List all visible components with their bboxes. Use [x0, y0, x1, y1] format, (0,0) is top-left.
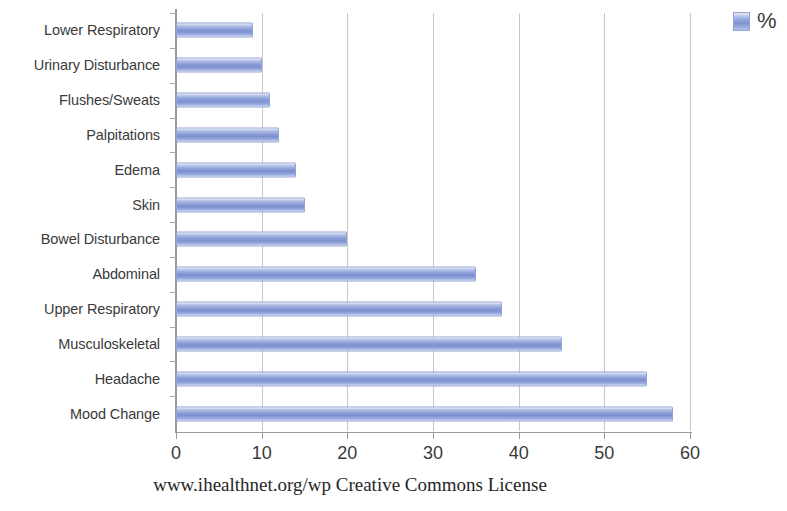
y-axis-tick — [170, 396, 176, 397]
x-axis-tick-labels: 0102030405060 — [176, 443, 690, 473]
gridline — [347, 13, 348, 431]
category-label: Bowel Disturbance — [0, 231, 160, 247]
category-label: Palpitations — [0, 127, 160, 143]
y-axis-tick — [170, 327, 176, 328]
x-axis-tick-label: 30 — [423, 443, 443, 464]
bar-chart: Mood ChangeHeadacheMusculoskeletalUpper … — [0, 0, 787, 511]
bar — [176, 93, 270, 108]
bar — [176, 232, 347, 247]
gridline — [519, 13, 520, 431]
bar — [176, 302, 502, 317]
x-axis-tick — [433, 432, 434, 439]
y-axis-tick — [170, 292, 176, 293]
y-axis-tick — [170, 257, 176, 258]
bar — [176, 197, 305, 212]
bar — [176, 371, 647, 386]
x-axis-tick-label: 40 — [509, 443, 529, 464]
x-axis-tick — [519, 432, 520, 439]
bar — [176, 336, 562, 351]
y-axis-tick — [170, 187, 176, 188]
y-axis-tick — [170, 118, 176, 119]
category-label: Edema — [0, 162, 160, 178]
x-axis-tick-label: 20 — [337, 443, 357, 464]
category-label: Abdominal — [0, 266, 160, 282]
category-label: Lower Respiratory — [0, 22, 160, 38]
category-label: Urinary Disturbance — [0, 57, 160, 73]
y-axis-tick — [170, 48, 176, 49]
category-label: Headache — [0, 371, 160, 387]
category-label: Skin — [0, 197, 160, 213]
gridline — [690, 13, 691, 431]
legend-swatch-icon — [733, 12, 750, 31]
bar — [176, 267, 476, 282]
bar — [176, 23, 253, 38]
x-axis-tick — [176, 432, 177, 439]
x-axis-tick-label: 60 — [680, 443, 700, 464]
gridline — [604, 13, 605, 431]
gridline — [262, 13, 263, 431]
x-axis-tick-label: 0 — [171, 443, 181, 464]
x-axis-tick — [262, 432, 263, 439]
plot-area — [176, 13, 690, 431]
bar — [176, 127, 279, 142]
category-label: Flushes/Sweats — [0, 92, 160, 108]
chart-legend: % — [733, 10, 777, 32]
y-axis-tick — [170, 361, 176, 362]
category-axis-labels: Mood ChangeHeadacheMusculoskeletalUpper … — [0, 13, 168, 431]
y-axis-tick — [170, 152, 176, 153]
category-label: Musculoskeletal — [0, 336, 160, 352]
x-axis-tick — [690, 432, 691, 439]
bar — [176, 406, 673, 421]
category-label: Upper Respiratory — [0, 301, 160, 317]
y-axis-tick — [170, 222, 176, 223]
y-axis-tick — [170, 83, 176, 84]
category-label: Mood Change — [0, 406, 160, 422]
chart-caption: www.ihealthnet.org/wp Creative Commons L… — [0, 474, 700, 496]
x-axis-tick — [347, 432, 348, 439]
x-axis-tick-label: 50 — [594, 443, 614, 464]
gridline — [433, 13, 434, 431]
x-axis-tick-label: 10 — [252, 443, 272, 464]
y-axis-tick — [170, 13, 176, 14]
bar — [176, 162, 296, 177]
legend-label: % — [757, 10, 777, 32]
bar — [176, 58, 262, 73]
x-axis-tick — [604, 432, 605, 439]
